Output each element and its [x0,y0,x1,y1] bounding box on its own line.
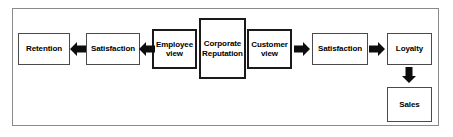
arrow-satisfaction-to-retention [70,41,86,57]
node-customer-view-line1: Customer [251,40,288,49]
arrow-customer-view-to-satisfaction [294,41,310,57]
node-corporate-reputation[interactable]: Corporate Reputation [199,18,246,79]
node-employee-view-label: Employee view [154,40,195,58]
node-employee-view-line2: view [166,49,183,58]
arrow-employee-view-to-satisfaction [139,41,155,57]
node-sales[interactable]: Sales [387,87,432,122]
node-retention-label: Retention [24,44,64,53]
node-satisfaction-right-label: Satisfaction [316,44,364,53]
node-customer-view-label: Customer view [249,40,290,58]
node-employee-view-line1: Employee [156,40,193,49]
node-sales-label: Sales [397,100,421,109]
node-loyalty[interactable]: Loyalty [387,33,432,65]
node-satisfaction-left[interactable]: Satisfaction [86,33,140,65]
arrow-loyalty-to-sales [401,67,417,83]
node-customer-view[interactable]: Customer view [247,29,292,69]
node-retention[interactable]: Retention [18,33,70,65]
node-corporate-reputation-line1: Corporate [204,39,241,48]
arrow-satisfaction-to-loyalty [369,41,385,57]
node-corporate-reputation-line2: Reputation [202,49,243,58]
node-customer-view-line2: view [261,49,278,58]
node-loyalty-label: Loyalty [394,44,425,53]
node-employee-view[interactable]: Employee view [152,29,197,69]
diagram-canvas: Retention Satisfaction Employee view Cor… [0,0,453,137]
node-corporate-reputation-label: Corporate Reputation [200,39,245,57]
node-satisfaction-left-label: Satisfaction [89,44,137,53]
node-satisfaction-right[interactable]: Satisfaction [312,33,368,65]
